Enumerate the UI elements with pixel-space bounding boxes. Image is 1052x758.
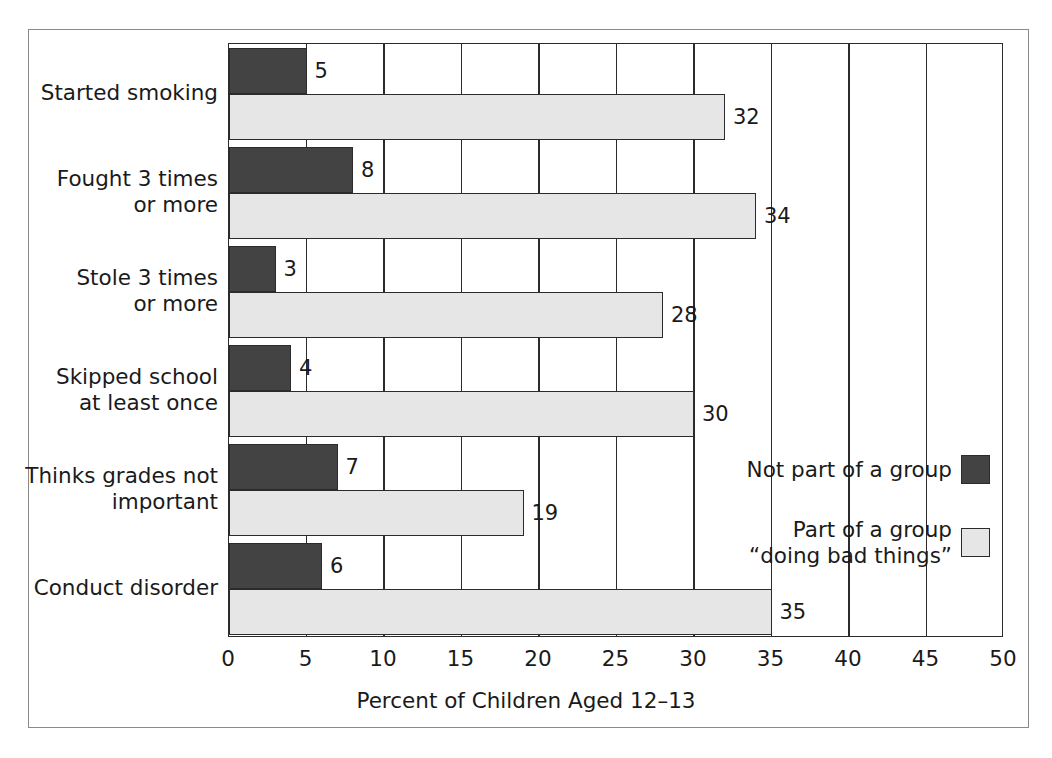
bar-value-label: 30: [702, 404, 729, 425]
bar-value-label: 7: [346, 457, 359, 478]
bar-value-label: 6: [330, 556, 343, 577]
category-label: Fought 3 times or more: [18, 166, 218, 218]
x-tick-label: 35: [757, 648, 784, 670]
bar-value-label: 8: [361, 160, 374, 181]
category-label: Stole 3 times or more: [18, 265, 218, 317]
x-tick-label: 30: [679, 648, 706, 670]
x-tick-label: 25: [602, 648, 629, 670]
category-label: Started smoking: [18, 80, 218, 106]
bar-value-label: 34: [764, 206, 791, 227]
legend-swatch: [961, 455, 990, 484]
bar: [229, 391, 694, 437]
bar: [229, 246, 276, 292]
x-tick-label: 40: [834, 648, 861, 670]
x-tick-label: 15: [447, 648, 474, 670]
legend-item: Part of a group “doing bad things”: [749, 517, 990, 569]
bar-value-label: 5: [315, 61, 328, 82]
bar-value-label: 35: [780, 602, 807, 623]
x-axis-title: Percent of Children Aged 12–13: [0, 688, 1052, 713]
bar-value-label: 4: [299, 358, 312, 379]
category-label: Thinks grades not important: [18, 463, 218, 515]
bar: [229, 490, 524, 536]
bar: [229, 444, 338, 490]
x-tick-label: 10: [369, 648, 396, 670]
x-tick-label: 0: [221, 648, 235, 670]
bar: [229, 589, 772, 635]
category-label: Skipped school at least once: [18, 364, 218, 416]
bar-value-label: 28: [671, 305, 698, 326]
legend-swatch: [961, 528, 990, 557]
bar: [229, 193, 756, 239]
x-tick-label: 20: [524, 648, 551, 670]
x-tick-label: 45: [912, 648, 939, 670]
x-tick-label: 50: [989, 648, 1016, 670]
legend-label: Not part of a group: [747, 457, 952, 483]
x-tick-label: 5: [299, 648, 313, 670]
bar: [229, 292, 663, 338]
bar-value-label: 3: [284, 259, 297, 280]
bar-value-label: 32: [733, 107, 760, 128]
figure: 532834328430719635 Started smokingFought…: [0, 0, 1052, 758]
bar-value-label: 19: [532, 503, 559, 524]
category-label: Conduct disorder: [18, 575, 218, 601]
bar: [229, 94, 725, 140]
bar: [229, 543, 322, 589]
legend-label: Part of a group “doing bad things”: [749, 517, 952, 569]
chart-legend: Not part of a groupPart of a group “doin…: [700, 455, 990, 565]
bar: [229, 48, 307, 94]
bar: [229, 345, 291, 391]
legend-item: Not part of a group: [747, 455, 990, 484]
bar: [229, 147, 353, 193]
